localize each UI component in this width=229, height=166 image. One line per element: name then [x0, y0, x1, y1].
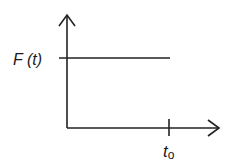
force-time-diagram: F (t) to — [0, 0, 229, 166]
force-label: F (t) — [13, 51, 42, 68]
t0-label: to — [163, 142, 175, 162]
t0-label-sub: o — [168, 148, 175, 162]
